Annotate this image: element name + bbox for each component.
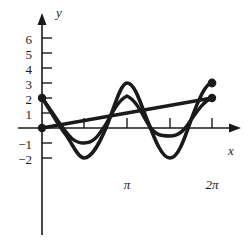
y-tick-label-3: 3 xyxy=(12,78,32,91)
y-tick-label-1: 1 xyxy=(12,108,32,121)
y-tick-label-minus-2: −2 xyxy=(8,153,32,166)
x-tick-label-pi: π xyxy=(112,178,142,191)
math-graph xyxy=(0,0,249,245)
point-right-2 xyxy=(208,94,216,102)
point-origin xyxy=(38,124,46,132)
y-tick-label-6: 6 xyxy=(12,33,32,46)
x-axis-label: x xyxy=(228,144,234,157)
y-tick-label-4: 4 xyxy=(12,63,32,76)
y-axis-label: y xyxy=(56,6,62,19)
y-tick-label-2: 2 xyxy=(12,93,32,106)
x-tick-label-two-pi: 2π xyxy=(192,178,232,191)
y-tick-label-minus-1: −1 xyxy=(8,138,32,151)
point-right-4 xyxy=(208,79,217,88)
point-left-2 xyxy=(38,94,46,102)
y-tick-label-5: 5 xyxy=(12,48,32,61)
